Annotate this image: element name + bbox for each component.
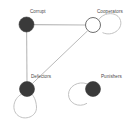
node-label-corrupt: Corrupt [30,9,46,14]
node-cooperators[interactable] [86,18,101,33]
network-graph-canvas [0,0,136,124]
node-defectors[interactable] [20,82,35,97]
node-label-cooperators: Cooperators [97,9,123,14]
node-corrupt[interactable] [19,17,34,32]
self-loop-punishers [69,83,88,105]
node-label-defectors: Defectors [31,74,51,79]
self-loop-cooperators [99,14,121,34]
network-diagram-figure: Corrupt Cooperators Defectors Punishers [0,0,136,124]
node-label-punishers: Punishers [101,74,122,79]
node-punishers[interactable] [86,82,101,97]
self-loop-defectors [14,94,37,118]
